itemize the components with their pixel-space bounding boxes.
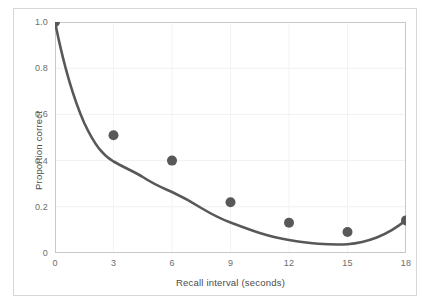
y-axis-title: Proportion correct (33, 111, 44, 190)
x-tick-label-18: 18 (401, 258, 411, 268)
x-tick-label-9: 9 (228, 258, 233, 268)
data-point (55, 22, 60, 27)
y-tick-label-0-2: 0.2 (22, 202, 48, 212)
data-point (109, 130, 119, 140)
plot-area (55, 22, 406, 253)
x-tick-label-3: 3 (111, 258, 116, 268)
x-tick-label-0: 0 (52, 258, 57, 268)
y-tick-label-1-0: 1.0 (22, 17, 48, 27)
chart-figure: Proportion correct 1.0 0.8 0.6 0.4 0.2 0… (0, 0, 430, 307)
data-point (343, 227, 353, 237)
data-point (226, 197, 236, 207)
y-tick-label-0-4: 0.4 (22, 156, 48, 166)
x-tick-label-12: 12 (284, 258, 294, 268)
x-axis-title: Recall interval (seconds) (55, 277, 406, 288)
data-point (284, 218, 294, 228)
data-point (167, 156, 177, 166)
y-tick-label-0-8: 0.8 (22, 63, 48, 73)
plot-svg (55, 22, 406, 253)
y-tick-label-0: 0 (22, 248, 48, 258)
vertical-gridlines (114, 22, 348, 253)
x-tick-label-6: 6 (169, 258, 174, 268)
x-tick-label-15: 15 (342, 258, 352, 268)
y-tick-label-0-6: 0.6 (22, 109, 48, 119)
